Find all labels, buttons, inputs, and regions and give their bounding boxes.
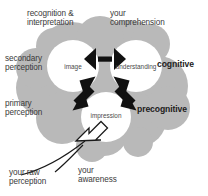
annotation-your-comprehension: your comprehension xyxy=(110,9,165,28)
node-label-understanding: understanding xyxy=(110,63,162,70)
annotation-primary-perception: primary perception xyxy=(5,99,42,118)
annotation-cognitive: cognitive xyxy=(157,60,194,69)
annotation-recognition-interpretation: recognition & interpretation xyxy=(27,9,74,28)
node-label-impression: impression xyxy=(84,112,128,119)
annotation-secondary-perception: secondary perception xyxy=(5,54,42,73)
annotation-precognitive: precognitive xyxy=(137,105,187,114)
annotation-your-awareness: your awareness xyxy=(78,166,117,185)
diagram-canvas: image understanding impression recogniti… xyxy=(0,0,208,196)
annotation-your-raw-perception: your raw perception xyxy=(9,168,46,187)
node-label-image: image xyxy=(55,63,91,70)
